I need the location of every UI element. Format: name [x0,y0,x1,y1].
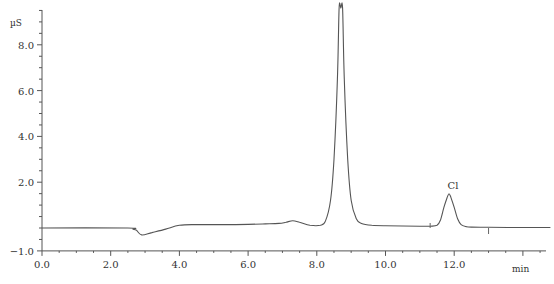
x-tick-label: 0.0 [34,259,50,270]
x-axis: 0.02.04.06.08.010.012.0 [34,251,546,270]
y-tick-label: 6.0 [18,86,34,97]
y-tick-label: −1.0 [10,246,34,257]
y-tick-label: 2.0 [18,177,34,188]
y-tick-label: 8.0 [18,40,34,51]
x-tick-label: 12.0 [443,259,465,270]
signal-trace [42,3,550,235]
x-tick-label: 8.0 [309,259,325,270]
y-tick-label: 4.0 [18,131,34,142]
x-tick-label: 2.0 [103,259,119,270]
y-axis-unit: µS [10,18,22,28]
peak-label-cl: Cl [448,180,459,191]
x-tick-label: 6.0 [240,259,256,270]
x-tick-label: 4.0 [171,259,187,270]
x-tick-label: 10.0 [374,259,396,270]
y-axis: −1.02.04.06.08.0 [10,10,42,257]
chromatogram-chart: −1.02.04.06.08.0 0.02.04.06.08.010.012.0… [0,0,554,284]
integration-markers [430,223,488,234]
x-axis-unit: min [512,264,529,274]
